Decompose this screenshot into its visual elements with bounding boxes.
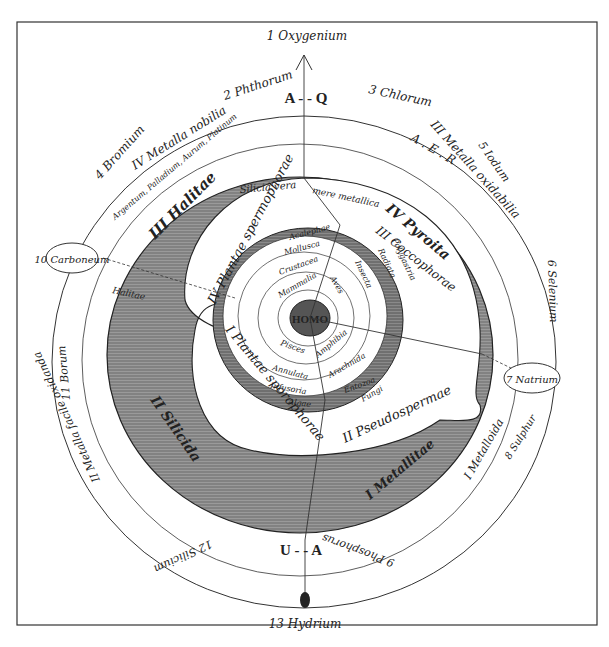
hydrium-flask-icon [300, 592, 310, 608]
carboneum-label: 10 Carboneum [35, 254, 110, 265]
naturphilosophy-circle-diagram: HOMO 1 Oxygenium 13 Hydrium A - - Q U - … [0, 0, 609, 647]
oxygenium-label: 1 Oxygenium [267, 29, 347, 43]
axis-bottom-letters: U - - A [280, 542, 322, 558]
element-label: 4 Bromium [91, 122, 147, 182]
hydrium-label: 13 Hydrium [269, 617, 342, 631]
axis-top-letters: A - - Q [285, 90, 328, 106]
element-label: 3 Chlorum [367, 82, 433, 109]
element-label: 2 Phthorum [221, 67, 295, 103]
natrium-label: 7 Natrium [506, 374, 558, 385]
element-label: 6 Selenium [545, 260, 560, 323]
